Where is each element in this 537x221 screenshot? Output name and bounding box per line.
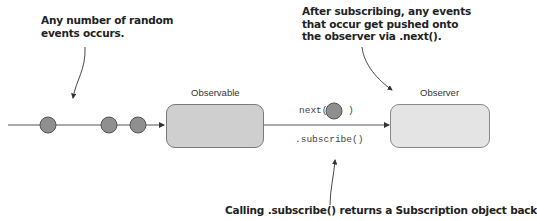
annotation-subscribe-returns: Calling .subscribe() returns a Subscript… [225, 204, 537, 217]
annotation-random-events: Any number of random events occurs. [41, 14, 173, 39]
observer-box [390, 104, 490, 148]
annotation-after-subscribing: After subscribing, any events that occur… [302, 5, 471, 43]
event-marble-icon [40, 117, 56, 133]
next-marble-icon [326, 103, 342, 119]
subscribe-label: .subscribe() [295, 134, 363, 145]
annotation-arrow-subscribe [330, 160, 335, 205]
next-label-prefix: next( [299, 105, 328, 116]
observable-box [166, 104, 264, 148]
annotation-arrow-random [73, 47, 85, 98]
observable-label: Observable [191, 87, 240, 98]
observer-label: Observer [420, 87, 459, 98]
event-marble-icon [130, 117, 146, 133]
event-marble-icon [101, 117, 117, 133]
next-label-suffix: ) [348, 105, 354, 116]
annotation-arrow-next [362, 47, 392, 90]
